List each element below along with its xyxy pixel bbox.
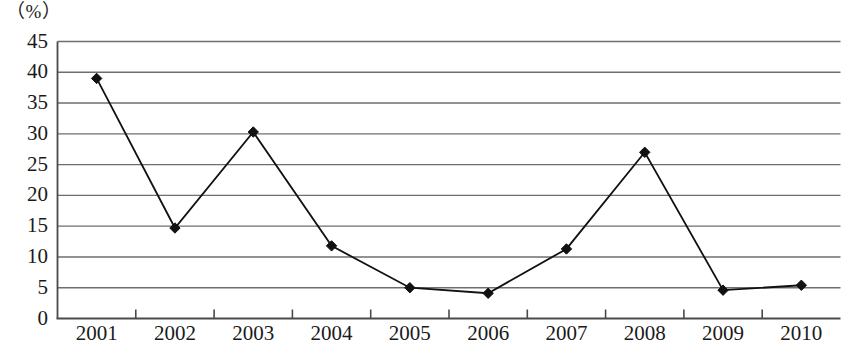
- x-axis-tick-label-2008: 2008: [606, 322, 684, 344]
- y-axis-tick-label-25: 25: [4, 154, 48, 175]
- x-axis-tick-label-2010: 2010: [762, 322, 840, 344]
- y-axis-tick-label-0: 0: [4, 308, 48, 329]
- x-axis-tick-label-2004: 2004: [292, 322, 370, 344]
- data-point-marker-2009: [718, 285, 728, 295]
- line-chart: （%） 051015202530354045200120022003200420…: [0, 0, 858, 349]
- x-axis-tick-label-2005: 2005: [371, 322, 449, 344]
- y-axis-tick-label-15: 15: [4, 215, 48, 236]
- data-series-line: [97, 78, 802, 293]
- data-point-marker-2001: [91, 73, 101, 83]
- data-point-marker-2004: [326, 241, 336, 251]
- x-axis-tick-label-2006: 2006: [449, 322, 527, 344]
- x-axis-tick-label-2002: 2002: [136, 322, 214, 344]
- y-axis-tick-label-10: 10: [4, 246, 48, 267]
- y-axis-tick-label-45: 45: [4, 31, 48, 52]
- data-point-marker-2005: [405, 283, 415, 293]
- chart-plot-area: [0, 0, 858, 349]
- x-axis-tick-label-2001: 2001: [58, 322, 136, 344]
- y-axis-tick-label-20: 20: [4, 184, 48, 205]
- x-axis-tick-label-2009: 2009: [684, 322, 762, 344]
- y-axis-tick-label-5: 5: [4, 277, 48, 298]
- data-point-marker-2006: [483, 288, 493, 298]
- data-point-marker-2010: [796, 280, 806, 290]
- x-axis-tick-label-2003: 2003: [214, 322, 292, 344]
- y-axis-tick-label-30: 30: [4, 123, 48, 144]
- x-axis-tick-label-2007: 2007: [527, 322, 605, 344]
- y-axis-tick-label-35: 35: [4, 92, 48, 113]
- y-axis-tick-label-40: 40: [4, 61, 48, 82]
